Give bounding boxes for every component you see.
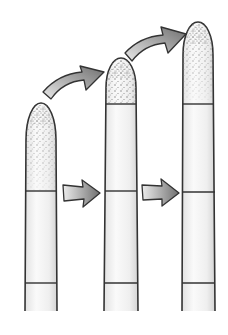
straight-arrow-icon xyxy=(63,180,100,207)
curved-arrow-icon xyxy=(43,66,104,99)
cell-2 xyxy=(104,58,138,311)
cell-1 xyxy=(25,103,57,311)
curved-arrow-icon xyxy=(125,27,186,61)
straight-arrow-icon xyxy=(142,179,179,206)
cell-3 xyxy=(182,22,215,311)
cell-growth-diagram xyxy=(0,0,228,335)
diagram-canvas xyxy=(0,0,228,335)
